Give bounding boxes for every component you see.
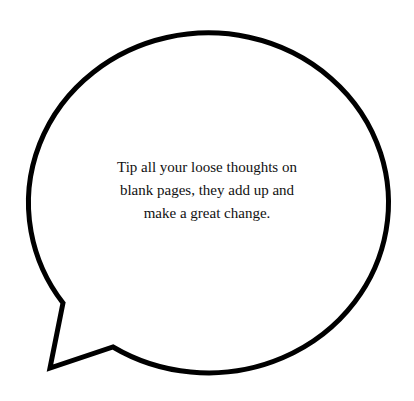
- bubble-quote-text: Tip all your loose thoughts on blank pag…: [107, 156, 307, 225]
